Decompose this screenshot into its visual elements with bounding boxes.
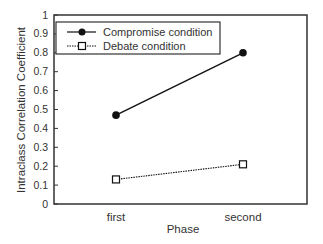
open-square-marker-icon bbox=[240, 161, 247, 168]
series-line bbox=[116, 164, 243, 179]
x-axis-label: Phase bbox=[167, 223, 200, 235]
series-layer bbox=[112, 49, 247, 183]
legend-label-compromise: Compromise condition bbox=[103, 26, 212, 38]
x-tick-label: second bbox=[224, 211, 261, 223]
open-square-marker-icon bbox=[79, 43, 86, 50]
y-tick-label: 0.2 bbox=[33, 160, 48, 172]
series-line bbox=[116, 53, 243, 115]
y-tick-label: 0.4 bbox=[33, 122, 48, 134]
legend-label-debate: Debate condition bbox=[103, 40, 186, 52]
y-tick-label: 0.5 bbox=[33, 103, 48, 115]
filled-circle-marker-icon bbox=[239, 49, 247, 57]
y-tick-label: 0.6 bbox=[33, 84, 48, 96]
y-tick-label: 0.3 bbox=[33, 141, 48, 153]
y-tick-label: 0.9 bbox=[33, 27, 48, 39]
x-tick-label: first bbox=[107, 211, 126, 223]
y-tick-label: 0 bbox=[42, 198, 48, 210]
y-tick-label: 1 bbox=[42, 9, 48, 21]
filled-circle-marker-icon bbox=[79, 29, 86, 36]
y-tick-label: 0.1 bbox=[33, 179, 48, 191]
y-axis-label: Intraclass Correlation Coefficient bbox=[15, 26, 27, 193]
x-axis-labels: firstsecond bbox=[107, 211, 262, 223]
filled-circle-marker-icon bbox=[112, 111, 120, 119]
open-square-marker-icon bbox=[113, 176, 120, 183]
y-tick-label: 0.8 bbox=[33, 46, 48, 58]
y-tick-label: 0.7 bbox=[33, 65, 48, 77]
legend: Compromise condition Debate condition bbox=[56, 22, 220, 54]
line-chart: 00.10.20.30.40.50.60.70.80.91 firstsecon… bbox=[0, 0, 323, 244]
